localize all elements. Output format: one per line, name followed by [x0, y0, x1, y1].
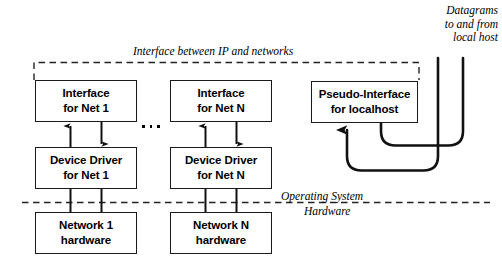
- ellipsis-icon: [142, 125, 160, 128]
- datagrams-label: Datagrams to and from local host: [398, 4, 498, 45]
- interface-net-1-box[interactable]: Interface for Net 1: [35, 80, 137, 122]
- device-driver-net-n-line2: for Net N: [197, 168, 245, 183]
- interface-boundary-label: Interface between IP and networks: [133, 45, 293, 59]
- ip-network-interface-diagram: Interface for Net 1 Interface for Net N …: [0, 0, 502, 270]
- network-1-hardware-box[interactable]: Network 1 hardware: [35, 212, 137, 254]
- interface-net-n-line1: Interface: [197, 86, 244, 101]
- hardware-label: Hardware: [304, 205, 350, 219]
- pseudo-interface-line2: for localhost: [331, 102, 399, 117]
- interface-net-n-line2: for Net N: [197, 101, 245, 116]
- network-1-hardware-line1: Network 1: [59, 218, 113, 233]
- device-driver-net-1-line2: for Net 1: [63, 168, 109, 183]
- device-driver-net-n-line1: Device Driver: [185, 153, 257, 168]
- ip-networks-boundary-bracket: [34, 63, 419, 81]
- pseudo-interface-line1: Pseudo-Interface: [319, 87, 411, 102]
- datagrams-label-line1: Datagrams: [398, 4, 498, 18]
- datagrams-label-line3: local host: [398, 31, 498, 45]
- network-n-hardware-line1: Network N: [193, 218, 249, 233]
- device-driver-net-1-line1: Device Driver: [50, 153, 122, 168]
- network-1-hardware-line2: hardware: [61, 233, 111, 248]
- network-n-hardware-line2: hardware: [196, 233, 246, 248]
- device-driver-net-n-box[interactable]: Device Driver for Net N: [170, 147, 272, 189]
- interface-net-n-box[interactable]: Interface for Net N: [170, 80, 272, 122]
- pseudo-interface-localhost-box[interactable]: Pseudo-Interface for localhost: [311, 81, 418, 123]
- network-n-hardware-box[interactable]: Network N hardware: [170, 212, 272, 254]
- operating-system-label: Operating System: [281, 190, 363, 204]
- interface-net-1-line2: for Net 1: [63, 101, 109, 116]
- datagrams-label-line2: to and from: [398, 18, 498, 32]
- device-driver-net-1-box[interactable]: Device Driver for Net 1: [35, 147, 137, 189]
- interface-net-1-line1: Interface: [62, 86, 109, 101]
